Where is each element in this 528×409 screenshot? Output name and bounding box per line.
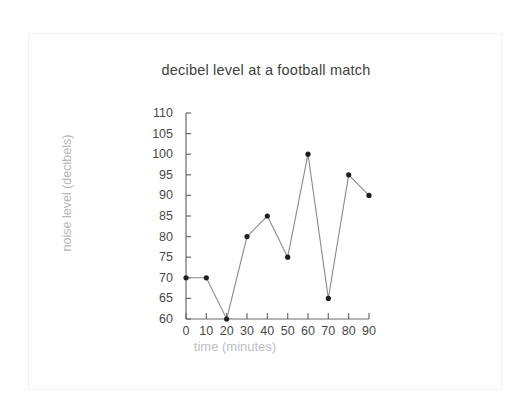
y-axis-title: noise level (decibels) xyxy=(60,93,74,293)
data-point xyxy=(326,296,331,301)
y-tick-label: 70 xyxy=(145,271,173,285)
data-point xyxy=(224,316,229,321)
y-tick-label: 80 xyxy=(145,230,173,244)
y-tick-label: 110 xyxy=(145,106,173,120)
data-point xyxy=(285,255,290,260)
y-tick-label: 100 xyxy=(145,147,173,161)
data-point xyxy=(346,172,351,177)
data-point xyxy=(366,193,371,198)
data-point xyxy=(265,213,270,218)
data-point xyxy=(204,275,209,280)
y-tick-label: 85 xyxy=(145,209,173,223)
figure-frame: decibel level at a football match noise … xyxy=(28,33,502,390)
data-point xyxy=(244,234,249,239)
y-tick-label: 60 xyxy=(145,312,173,326)
data-point xyxy=(183,275,188,280)
y-tick-label: 105 xyxy=(145,127,173,141)
y-tick-label: 65 xyxy=(145,291,173,305)
x-tick-marks xyxy=(186,313,369,319)
y-tick-label: 90 xyxy=(145,188,173,202)
x-tick-label: 90 xyxy=(357,324,381,338)
plot-area: noise level (decibels) time (minutes) 11… xyxy=(29,34,503,391)
y-tick-marks xyxy=(186,113,191,319)
data-point xyxy=(305,152,310,157)
y-tick-label: 95 xyxy=(145,168,173,182)
data-series-line xyxy=(186,154,369,319)
y-tick-label: 75 xyxy=(145,250,173,264)
x-axis-title: time (minutes) xyxy=(125,339,345,354)
